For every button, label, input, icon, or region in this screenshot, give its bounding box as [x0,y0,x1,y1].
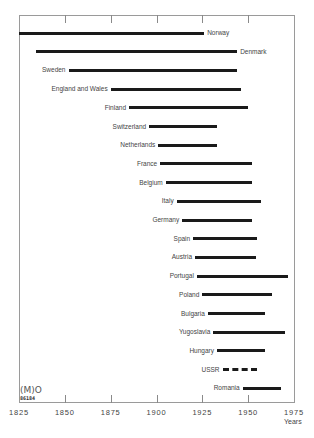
bar-label: Hungary [189,347,214,355]
bar-finland [129,106,248,109]
top-tick [157,15,158,23]
bar-romania [243,387,282,390]
x-tick-label: 1875 [101,408,121,417]
bar-austria [195,256,256,259]
bar-germany [182,219,252,222]
x-tick-label: 1925 [192,408,212,417]
bar-poland [202,293,272,296]
bar-label: Romania [214,384,240,392]
bar-label: Portugal [170,272,194,280]
bar-sweden [69,69,238,72]
top-tick [248,15,249,23]
bottom-tick [65,395,66,403]
bar-label: Yugoslavia [179,328,210,336]
x-tick-label: 1900 [147,408,167,417]
bar-label: Norway [207,29,229,37]
bar-label: Spain [174,235,191,243]
bar-spain [193,237,257,240]
x-tick-label: 1850 [55,408,75,417]
bar-france [160,162,252,165]
bar-netherlands [158,144,217,147]
bar-bulgaria [208,312,265,315]
bar-label: Finland [105,104,126,112]
top-tick [65,15,66,23]
bar-label: Germany [152,216,179,224]
bar-label: Netherlands [120,141,155,149]
figure-code: 86184 [20,395,35,401]
timeline-chart: NorwayDenmarkSwedenEngland and WalesFinl… [0,0,314,438]
bar-label: Italy [162,197,174,205]
top-tick [111,15,112,23]
bar-portugal [197,275,289,278]
x-tick-label: 1825 [9,408,29,417]
bar-yugoslavia [213,331,285,334]
bar-label: England and Wales [52,85,108,93]
bottom-tick [248,395,249,403]
bar-label: Bulgaria [181,310,205,318]
bar-label: Denmark [240,48,266,56]
top-tick [202,15,203,23]
x-tick-label: 1950 [238,408,258,417]
bar-label: Belgium [139,179,162,187]
bar-belgium [166,181,252,184]
bar-norway [19,32,204,35]
bar-label: Switzerland [113,123,147,131]
bar-switzerland [149,125,217,128]
bar-hungary [217,349,265,352]
bottom-tick [157,395,158,403]
bar-england-and-wales [111,88,241,91]
bottom-tick [111,395,112,403]
bar-label: Austria [172,253,192,261]
bar-label: Sweden [42,66,66,74]
bar-italy [177,200,261,203]
publisher-logo: (M)O [20,385,42,395]
x-axis-title: Years [284,418,302,425]
x-tick-label: 1975 [284,408,304,417]
bar-label: Poland [179,291,199,299]
bar-label: USSR [201,366,219,374]
bar-ussr [223,368,258,371]
bar-denmark [36,50,238,53]
bottom-tick [202,395,203,403]
bar-label: France [137,160,157,168]
